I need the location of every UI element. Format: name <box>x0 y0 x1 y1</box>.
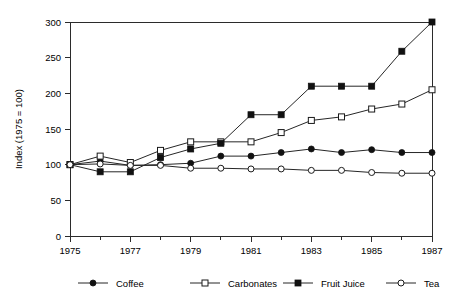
legend-label: Coffee <box>116 278 144 289</box>
data-point <box>369 170 375 176</box>
data-point <box>218 165 224 171</box>
legend-label: Tea <box>424 278 440 289</box>
data-point <box>67 162 73 168</box>
data-point <box>308 167 314 173</box>
data-point <box>308 83 314 89</box>
data-point <box>188 146 194 152</box>
data-point <box>369 147 375 153</box>
legend-item-fruit-juice[interactable]: Fruit Juice <box>283 278 365 289</box>
data-point <box>97 153 103 159</box>
x-tick-label: 1987 <box>421 245 442 256</box>
data-point <box>97 161 103 167</box>
data-point <box>248 153 254 159</box>
data-point <box>369 83 375 89</box>
series-line <box>70 22 432 172</box>
data-point <box>158 155 164 161</box>
data-point <box>218 153 224 159</box>
data-point <box>188 139 194 145</box>
data-point <box>158 162 164 168</box>
data-point <box>158 147 164 153</box>
x-tick-label: 1985 <box>361 245 382 256</box>
x-tick-label: 1975 <box>59 245 80 256</box>
legend-label: Carbonates <box>228 278 277 289</box>
data-point <box>339 83 345 89</box>
y-tick-label: 200 <box>45 88 61 99</box>
data-point <box>127 162 133 168</box>
legend-item-coffee[interactable]: Coffee <box>78 278 144 289</box>
y-tick-label: 100 <box>45 159 61 170</box>
legend-marker <box>202 280 208 286</box>
series-fruit-juice <box>67 19 435 175</box>
data-point <box>369 106 375 112</box>
y-axis-title-text: Index (1975 = 100) <box>13 89 24 169</box>
data-point <box>399 170 405 176</box>
data-point <box>278 112 284 118</box>
plot-frame <box>70 22 432 236</box>
data-point <box>429 19 435 25</box>
x-tick-label: 1983 <box>301 245 322 256</box>
data-point <box>429 170 435 176</box>
data-point <box>248 166 254 172</box>
legend-item-carbonates[interactable]: Carbonates <box>190 278 277 289</box>
y-tick-label: 300 <box>45 17 61 28</box>
line-chart: 050100150200250300Index (1975 = 100)1975… <box>0 0 455 299</box>
data-point <box>399 101 405 107</box>
data-point <box>248 112 254 118</box>
y-tick-label: 0 <box>56 231 61 242</box>
legend-marker <box>295 280 301 286</box>
data-point <box>278 150 284 156</box>
data-point <box>339 167 345 173</box>
data-point <box>127 169 133 175</box>
x-tick-label: 1979 <box>180 245 201 256</box>
y-tick-label: 50 <box>50 195 61 206</box>
legend-item-tea[interactable]: Tea <box>386 278 440 289</box>
data-point <box>339 150 345 156</box>
y-tick-label: 150 <box>45 124 61 135</box>
chart-canvas: 050100150200250300Index (1975 = 100)1975… <box>0 0 455 299</box>
y-tick-label: 250 <box>45 52 61 63</box>
data-point <box>188 165 194 171</box>
x-tick-label: 1977 <box>120 245 141 256</box>
x-axis-ticks: 1975197719791981198319851987 <box>59 236 442 256</box>
data-point <box>399 48 405 54</box>
data-point <box>399 150 405 156</box>
data-point <box>339 114 345 120</box>
data-point <box>248 139 254 145</box>
x-tick-label: 1981 <box>240 245 261 256</box>
data-point <box>429 150 435 156</box>
data-point <box>308 117 314 123</box>
legend-label: Fruit Juice <box>321 278 365 289</box>
data-point <box>429 87 435 93</box>
legend-marker <box>398 280 404 286</box>
data-point <box>308 146 314 152</box>
series-tea <box>67 161 435 176</box>
y-axis-ticks: 050100150200250300 <box>45 17 70 242</box>
chart-legend: CoffeeCarbonatesFruit JuiceTea <box>78 278 440 289</box>
data-point <box>97 169 103 175</box>
y-axis-title: Index (1975 = 100) <box>13 89 24 169</box>
legend-marker <box>90 280 96 286</box>
data-point <box>278 166 284 172</box>
data-point <box>278 130 284 136</box>
data-point <box>218 140 224 146</box>
